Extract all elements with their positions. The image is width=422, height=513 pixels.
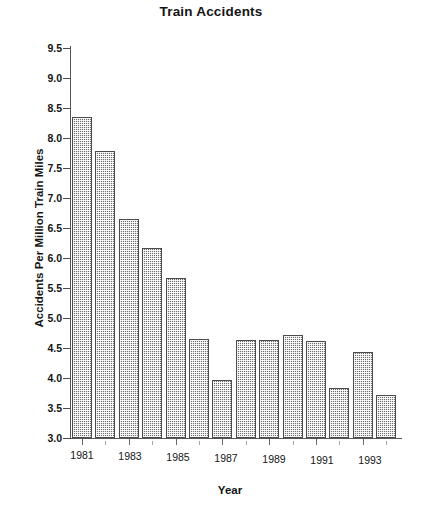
bar	[283, 335, 303, 438]
bar	[329, 388, 349, 438]
y-tick-mark	[63, 288, 70, 289]
x-tick-label: 1993	[348, 454, 392, 466]
y-tick-label: 5.5	[28, 282, 62, 294]
x-tick-mark-major	[363, 439, 364, 445]
y-tick-mark	[63, 438, 70, 439]
x-axis-title: Year	[60, 484, 400, 496]
y-tick-mark	[63, 168, 70, 169]
bar	[189, 339, 209, 438]
x-tick-mark-major	[222, 439, 223, 445]
x-tick-mark-major	[316, 439, 317, 445]
plot-area	[70, 48, 402, 438]
bar	[236, 340, 256, 438]
y-tick-mark	[63, 378, 70, 379]
y-tick-label: 4.0	[28, 372, 62, 384]
y-tick-label: 9.5	[28, 42, 62, 54]
y-tick-mark	[63, 348, 70, 349]
x-tick-mark-minor	[339, 441, 340, 445]
x-tick-mark-minor	[152, 441, 153, 445]
y-tick-label: 5.0	[28, 312, 62, 324]
x-tick-label: 1983	[108, 450, 152, 462]
bar	[353, 352, 373, 438]
y-tick-mark	[63, 318, 70, 319]
bar	[212, 380, 232, 438]
y-tick-mark	[63, 198, 70, 199]
bar	[376, 395, 396, 438]
bar	[166, 278, 186, 438]
y-axis-title: Accidents Per Million Train Miles	[33, 113, 45, 363]
bar	[142, 248, 162, 438]
x-tick-label: 1985	[156, 451, 200, 463]
y-tick-mark	[63, 78, 70, 79]
y-tick-label: 8.5	[28, 102, 62, 114]
x-tick-mark-minor	[293, 441, 294, 445]
x-tick-mark-minor	[105, 441, 106, 445]
y-tick-label: 3.5	[28, 402, 62, 414]
x-tick-mark-minor	[246, 441, 247, 445]
bar	[306, 341, 326, 438]
y-tick-label: 3.0	[28, 432, 62, 444]
x-tick-label: 1989	[252, 453, 296, 465]
y-tick-label: 8.0	[28, 132, 62, 144]
bar	[259, 340, 279, 438]
bar	[72, 117, 92, 438]
bar	[119, 219, 139, 438]
y-tick-mark	[63, 408, 70, 409]
y-tick-label: 7.5	[28, 162, 62, 174]
x-tick-mark-major	[129, 439, 130, 445]
y-tick-label: 4.5	[28, 342, 62, 354]
chart-title: Train Accidents	[0, 4, 422, 19]
x-tick-mark-minor	[199, 441, 200, 445]
x-tick-label: 1991	[300, 454, 344, 466]
x-tick-mark-major	[269, 439, 270, 445]
x-tick-label: 1981	[60, 449, 104, 461]
x-tick-mark-major	[176, 439, 177, 445]
x-tick-label: 1987	[204, 452, 248, 464]
x-tick-mark-minor	[386, 441, 387, 445]
x-axis-line	[69, 438, 402, 439]
y-tick-mark	[63, 138, 70, 139]
y-tick-mark	[63, 48, 70, 49]
y-tick-mark	[63, 258, 70, 259]
y-tick-label: 6.5	[28, 222, 62, 234]
y-tick-label: 9.0	[28, 72, 62, 84]
y-tick-label: 6.0	[28, 252, 62, 264]
y-tick-mark	[63, 108, 70, 109]
train-accidents-bar-chart: Train Accidents Accidents Per Million Tr…	[0, 0, 422, 513]
y-tick-mark	[63, 228, 70, 229]
bar	[95, 151, 115, 438]
x-tick-mark-major	[82, 439, 83, 445]
y-tick-label: 7.0	[28, 192, 62, 204]
